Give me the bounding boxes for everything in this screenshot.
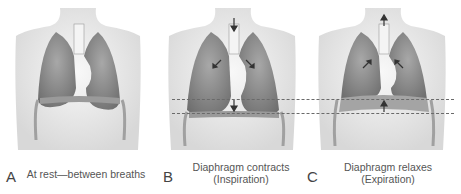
torso-lungs-illustration xyxy=(155,0,310,160)
caption-line: At rest—between breaths xyxy=(22,168,150,180)
panel-caption: At rest—between breaths xyxy=(22,168,150,180)
panel-expiration: C Diaphragm relaxes (Expiration) xyxy=(305,0,460,194)
panel-caption: Diaphragm contracts (Inspiration) xyxy=(177,161,305,185)
panel-letter: C xyxy=(307,168,318,185)
caption-line: (Inspiration) xyxy=(177,173,305,185)
torso-lungs-illustration xyxy=(0,0,155,160)
panel-at-rest: A At rest—between breaths xyxy=(0,0,155,194)
caption-line: (Expiration) xyxy=(323,173,453,185)
caption-line: Diaphragm relaxes xyxy=(323,161,453,173)
panel-letter: B xyxy=(163,168,173,185)
caption-line: Diaphragm contracts xyxy=(177,161,305,173)
torso-lungs-illustration xyxy=(305,0,460,160)
dashed-line-upper xyxy=(172,99,454,100)
panel-inspiration: B Diaphragm contracts (Inspiration) xyxy=(155,0,310,194)
panel-caption: Diaphragm relaxes (Expiration) xyxy=(323,161,453,185)
dashed-line-lower xyxy=(172,113,454,114)
panel-letter: A xyxy=(6,168,16,185)
